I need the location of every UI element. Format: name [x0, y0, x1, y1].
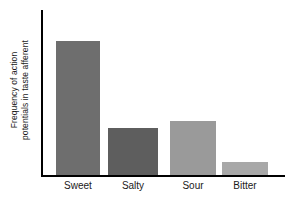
x-tick-label-sweet: Sweet [56, 180, 100, 191]
bar-sweet [56, 41, 100, 175]
x-tick-label-salty: Salty [108, 180, 158, 191]
plot-area [0, 0, 301, 204]
bar-sour [170, 121, 216, 175]
x-tick-label-sour: Sour [170, 180, 216, 191]
bar-bitter [222, 162, 268, 175]
x-tick-label-bitter: Bitter [222, 180, 268, 191]
bar-salty [108, 128, 158, 175]
bar-chart-figure: Frequency of action potentials in taste … [0, 0, 301, 204]
